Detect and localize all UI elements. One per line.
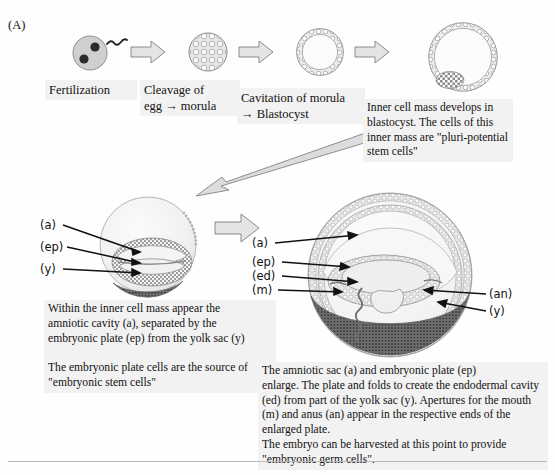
stage-blastocyst [297,29,344,76]
footer-divider [8,461,547,462]
stage-blastocyst-icm [429,23,498,92]
stage-caption-cavitation: Cavitation of morula → Blastocyst [237,88,365,124]
label-y-early: (y) [40,262,56,276]
label-ep-early: (ep) [40,240,63,254]
stage-morula [189,33,227,71]
callout-inner-cell-mass: Inner cell mass develops in blastocyst. … [363,99,513,162]
figure-panel-a: (A) Fertilization Cleavage of egg → moru… [0,0,555,475]
label-ep-late: (ep) [252,255,275,269]
label-m-late: (m) [252,283,272,297]
stage-arrow-2 [239,41,273,63]
stage-caption-fertilization: Fertilization [45,80,137,100]
callout-amniotic-cavity: Within the inner cell mass appear the am… [44,300,276,393]
label-y-late: (y) [489,304,505,318]
diagonal-pointer-arrow [196,132,371,196]
label-an-late: (an) [489,287,512,301]
stage-caption-cleavage: Cleavage of egg → morula [140,80,240,116]
label-ed-late: (ed) [252,269,275,283]
stage-fertilized-egg [73,36,127,70]
stage-arrow-1 [131,41,165,63]
early-embryo-section-graphic [100,197,196,297]
label-a-early: (a) [40,218,56,232]
late-embryo-section-graphic [308,193,472,357]
stage-arrow-3 [355,41,389,63]
label-a-late: (a) [252,236,268,250]
callout-enlarged-embryo: The amniotic sac (a) and embryonic plate… [258,362,548,470]
panel-letter: (A) [8,18,25,34]
